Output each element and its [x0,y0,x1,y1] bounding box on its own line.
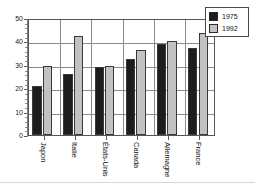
legend: 1975 1992 [205,7,249,37]
bar-italie-1992 [74,36,83,135]
y-minor-tick [25,47,27,48]
y-tick-mark-10 [24,113,27,114]
x-tick-label-canada: Canada [133,142,141,168]
y-minor-tick [25,52,27,53]
legend-item-1975: 1975 [209,11,238,22]
bar-group [154,20,185,135]
bar-france-1975 [188,48,197,135]
y-minor-tick [25,24,27,25]
y-tick-mark-20 [24,89,27,90]
plot-area [28,19,215,136]
bar-italie-1975 [63,74,72,135]
bar-japon-1992 [43,66,52,135]
legend-swatch-1992-icon [209,24,218,33]
bottom-divider [0,182,255,183]
legend-label-1975: 1975 [222,13,238,20]
y-tick-mark-30 [24,66,27,67]
x-tick-mark-4 [168,136,169,140]
x-tick-label-allemagne: Allemagne [164,142,172,177]
x-tick-label-italie: Italie [70,142,78,158]
y-minor-tick [25,71,27,72]
bar--tats-unis-1975 [95,67,104,135]
bar-allemagne-1975 [157,44,166,135]
y-tick-mark-40 [24,42,27,43]
x-tick-label-france: France [195,142,203,165]
y-minor-tick [25,108,27,109]
bar-japon-1975 [32,86,41,135]
y-minor-tick [25,56,27,57]
y-minor-tick [25,122,27,123]
y-tick-label-20: 20 [0,85,23,92]
y-minor-tick [25,94,27,95]
x-tick-mark-2 [106,136,107,140]
bar--tats-unis-1992 [105,66,114,135]
bar-canada-1975 [126,59,135,135]
legend-swatch-1975-icon [209,12,218,21]
y-tick-label-50: 50 [0,15,23,22]
y-minor-tick [25,38,27,39]
bar-group [29,20,60,135]
y-tick-label-10: 10 [0,109,23,116]
x-tick-mark-1 [75,136,76,140]
x-tick-label--tats-unis: États-Unis [101,142,109,177]
y-minor-tick [25,28,27,29]
bar-group [123,20,154,135]
bar-canada-1992 [136,50,145,135]
y-tick-label-0: 0 [0,132,23,139]
y-minor-tick [25,103,27,104]
bar-france-1992 [199,33,208,135]
y-minor-tick [25,85,27,86]
y-minor-tick [25,127,27,128]
bar-group [185,20,216,135]
bar-group [60,20,91,135]
y-tick-label-30: 30 [0,62,23,69]
x-tick-mark-5 [199,136,200,140]
bars-layer [29,20,214,135]
y-minor-tick [25,131,27,132]
y-minor-tick [25,61,27,62]
y-minor-tick [25,33,27,34]
bar-group [91,20,122,135]
y-minor-tick [25,99,27,100]
y-minor-tick [25,75,27,76]
bar-chart-figure: 01020304050 JaponItalieÉtats-UnisCanadaA… [0,0,255,188]
legend-item-1992: 1992 [209,23,238,34]
y-minor-tick [25,117,27,118]
x-tick-mark-3 [137,136,138,140]
y-tick-mark-0 [24,136,27,137]
y-tick-mark-50 [24,19,27,20]
legend-label-1992: 1992 [222,25,238,32]
x-tick-mark-0 [44,136,45,140]
y-minor-tick [25,80,27,81]
bar-allemagne-1992 [167,41,176,135]
y-tick-label-40: 40 [0,38,23,45]
x-tick-label-japon: Japon [39,142,47,162]
